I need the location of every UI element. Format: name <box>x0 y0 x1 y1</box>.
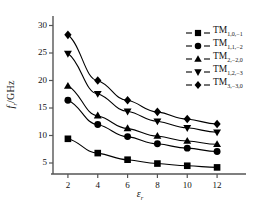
marker-triangle-up <box>183 137 191 144</box>
chart-series <box>64 97 220 155</box>
y-axis-label-base: f <box>5 106 16 109</box>
marker-triangle-up <box>213 140 221 147</box>
y-axis-tick-label: 15 <box>19 102 47 112</box>
chart-series <box>64 82 221 147</box>
x-axis-tick-label: 6 <box>114 180 142 190</box>
legend-label-base: TM <box>213 64 227 74</box>
legend-label-sub: 1,0,−1 <box>227 30 242 36</box>
legend-item: TM1,2,−3 <box>186 64 243 76</box>
y-axis-label-unit: /GHz <box>5 80 16 102</box>
y-axis-tick-label: 25 <box>19 47 47 57</box>
legend-label: TM2,−2,0 <box>213 52 243 63</box>
x-axis-tick-label: 12 <box>203 180 231 190</box>
legend-label-sub: 2,−2,0 <box>227 56 242 62</box>
legend-label: TM3,−3,0 <box>213 78 243 89</box>
y-axis-label-sub: r <box>11 103 18 106</box>
x-axis-tick-label: 10 <box>173 180 201 190</box>
chart-legend: TM1,0,−1TM1,1,−2TM2,−2,0TM1,2,−3TM3,−3,0 <box>186 25 243 89</box>
marker-circle <box>214 148 221 155</box>
legend-label-sub: 3,−3,0 <box>227 82 242 88</box>
series-line <box>68 139 217 168</box>
marker-diamond <box>94 76 101 85</box>
legend-symbol <box>186 64 210 76</box>
y-axis-tick-label: 30 <box>19 20 47 30</box>
legend-label: TM1,0,−1 <box>213 26 243 37</box>
marker-square <box>94 150 101 157</box>
y-axis-tick-label: 10 <box>19 130 47 140</box>
legend-label-base: TM <box>213 51 227 61</box>
legend-label: TM1,2,−3 <box>213 65 243 76</box>
marker-square <box>214 164 221 171</box>
marker-circle <box>195 43 202 50</box>
legend-item: TM3,−3,0 <box>186 77 243 89</box>
legend-symbol <box>186 38 210 50</box>
marker-square <box>124 156 131 163</box>
marker-circle <box>94 121 101 128</box>
marker-diamond <box>124 96 131 105</box>
legend-symbol <box>186 25 210 37</box>
legend-label-sub: 1,2,−3 <box>227 69 242 75</box>
marker-circle <box>124 133 131 140</box>
y-axis-tick-label: 20 <box>19 75 47 85</box>
legend-item: TM1,1,−2 <box>186 38 243 50</box>
marker-diamond <box>195 81 202 89</box>
marker-diamond <box>184 115 191 124</box>
marker-circle <box>64 97 71 104</box>
marker-square <box>65 136 72 143</box>
legend-label-base: TM <box>213 38 227 48</box>
legend-label: TM1,1,−2 <box>213 39 243 50</box>
legend-label-base: TM <box>213 25 227 35</box>
marker-square <box>184 162 191 169</box>
marker-diamond <box>213 120 220 129</box>
legend-label-base: TM <box>213 77 227 87</box>
marker-triangle-down <box>213 129 221 136</box>
legend-item: TM2,−2,0 <box>186 51 243 63</box>
marker-square <box>154 160 161 167</box>
x-axis-tick-label: 8 <box>143 180 171 190</box>
legend-symbol <box>186 51 210 63</box>
marker-circle <box>184 145 191 152</box>
marker-square <box>195 30 201 36</box>
x-axis-label-sub: r <box>141 194 144 201</box>
y-axis-tick-label: 5 <box>19 157 47 167</box>
x-axis-tick-label: 4 <box>84 180 112 190</box>
marker-triangle-up <box>64 82 72 89</box>
marker-triangle-up <box>194 55 201 62</box>
series-line <box>68 86 217 144</box>
x-axis-tick-label: 2 <box>54 180 82 190</box>
marker-circle <box>154 140 161 147</box>
legend-item: TM1,0,−1 <box>186 25 243 37</box>
legend-label-sub: 1,1,−2 <box>227 43 242 49</box>
figure: fr/GHz εr TM1,0,−1TM1,1,−2TM2,−2,0TM1,2,… <box>0 0 280 214</box>
series-line <box>68 100 217 151</box>
marker-diamond <box>154 108 161 117</box>
legend-symbol <box>186 77 210 89</box>
marker-triangle-down <box>194 69 201 76</box>
y-axis-label: fr/GHz <box>5 65 18 125</box>
